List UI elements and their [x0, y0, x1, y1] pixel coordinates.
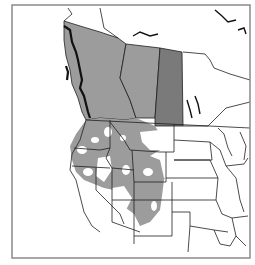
region-saskatchewan	[155, 48, 183, 126]
map-canvas	[0, 0, 255, 265]
range-map	[0, 0, 255, 265]
